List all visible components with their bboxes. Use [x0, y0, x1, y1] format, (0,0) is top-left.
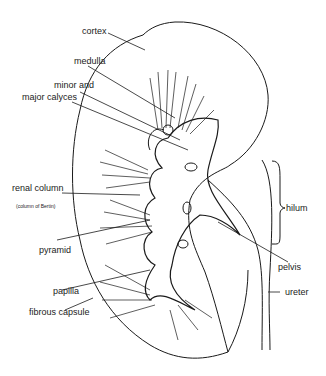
ureter-outline — [262, 160, 272, 350]
label-hilum: hilum — [286, 203, 308, 213]
label-calyces-line1: minor and — [54, 80, 94, 90]
label-medulla: medulla — [74, 56, 106, 66]
label-pyramid: pyramid — [39, 245, 71, 255]
leader-lines — [57, 33, 288, 310]
label-renal-column: renal column — [12, 183, 64, 193]
hilum-brace — [272, 161, 285, 244]
label-cortex: cortex — [82, 26, 107, 36]
label-column-of-bertin: (column of Bertin) — [16, 201, 55, 211]
label-pelvis: pelvis — [278, 262, 301, 272]
label-ureter: ureter — [285, 287, 309, 297]
label-fibrous-capsule: fibrous capsule — [29, 307, 90, 317]
label-papilla: papilla — [53, 286, 79, 296]
renal-pelvis — [144, 118, 240, 310]
kidney-diagram: cortex medulla minor and major calyces r… — [0, 0, 326, 376]
label-calyces-line2: major calyces — [22, 92, 77, 102]
kidney-outline — [73, 22, 269, 358]
